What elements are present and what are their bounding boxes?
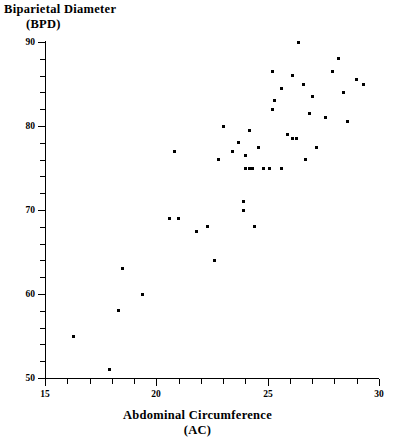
data-point: [355, 78, 358, 81]
data-point: [121, 267, 124, 270]
data-point: [308, 112, 311, 115]
data-point: [271, 108, 274, 111]
data-point: [253, 225, 256, 228]
data-point: [262, 167, 265, 170]
data-point: [268, 167, 271, 170]
data-point: [315, 146, 318, 149]
x-axis-title: Abdominal Circumference (AC): [0, 408, 395, 438]
data-point: [346, 120, 349, 123]
y-axis-tick-label: 60: [15, 289, 35, 299]
data-point: [273, 99, 276, 102]
y-axis-minor-tick: [40, 76, 45, 77]
y-axis-title: Biparietal Diameter (BPD): [4, 2, 116, 32]
y-axis-minor-tick: [40, 328, 45, 329]
data-point: [206, 225, 209, 228]
x-axis-minor-tick: [67, 379, 68, 384]
x-axis-tick-label: 20: [144, 389, 168, 399]
x-axis-tick-label: 15: [33, 389, 57, 399]
x-axis-minor-tick: [201, 379, 202, 384]
y-axis-minor-tick: [40, 59, 45, 60]
data-point: [108, 368, 111, 371]
x-axis-line: [45, 378, 379, 379]
x-axis-minor-tick: [179, 379, 180, 384]
x-axis-minor-tick: [290, 379, 291, 384]
data-point: [72, 335, 75, 338]
y-axis-minor-tick: [40, 109, 45, 110]
data-point: [117, 309, 120, 312]
data-point: [280, 167, 283, 170]
x-axis-minor-tick: [245, 379, 246, 384]
y-axis-minor-tick: [40, 344, 45, 345]
data-point: [231, 150, 234, 153]
x-axis-minor-tick: [223, 379, 224, 384]
y-axis-minor-tick: [40, 176, 45, 177]
data-point: [242, 209, 245, 212]
y-axis-minor-tick: [40, 277, 45, 278]
data-point: [217, 158, 220, 161]
data-point: [331, 70, 334, 73]
x-axis-major-tick: [379, 379, 380, 386]
data-point: [311, 95, 314, 98]
data-point: [286, 133, 289, 136]
data-point: [168, 217, 171, 220]
data-point: [222, 125, 225, 128]
y-axis-tick-label: 90: [15, 37, 35, 47]
x-axis-minor-tick: [112, 379, 113, 384]
y-axis-minor-tick: [40, 311, 45, 312]
data-point: [291, 74, 294, 77]
data-point: [237, 141, 240, 144]
y-axis-title-line1: Biparietal Diameter: [4, 2, 116, 17]
y-axis-major-tick: [38, 126, 45, 127]
data-point: [177, 217, 180, 220]
data-point: [242, 200, 245, 203]
y-axis-line: [45, 41, 46, 379]
x-axis-minor-tick: [134, 379, 135, 384]
x-axis-minor-tick: [90, 379, 91, 384]
y-axis-tick-label: 80: [15, 121, 35, 131]
data-point: [362, 83, 365, 86]
x-axis-minor-tick: [357, 379, 358, 384]
x-axis-major-tick: [45, 379, 46, 386]
x-axis-tick-label: 30: [367, 389, 391, 399]
data-point: [324, 116, 327, 119]
y-axis-tick-label: 50: [15, 373, 35, 383]
y-axis-minor-tick: [40, 92, 45, 93]
y-axis-minor-tick: [40, 260, 45, 261]
data-point: [244, 154, 247, 157]
data-point: [173, 150, 176, 153]
data-point: [271, 70, 274, 73]
data-point: [248, 129, 251, 132]
x-axis-minor-tick: [334, 379, 335, 384]
x-axis-major-tick: [268, 379, 269, 386]
data-point: [251, 167, 254, 170]
data-point: [280, 87, 283, 90]
data-point: [302, 83, 305, 86]
data-point: [304, 158, 307, 161]
y-axis-tick-label: 70: [15, 205, 35, 215]
data-point: [342, 91, 345, 94]
data-point: [257, 146, 260, 149]
data-point: [297, 41, 300, 44]
y-axis-major-tick: [38, 42, 45, 43]
y-axis-minor-tick: [40, 143, 45, 144]
x-axis-tick-label: 25: [256, 389, 280, 399]
data-point: [244, 167, 247, 170]
y-axis-minor-tick: [40, 193, 45, 194]
data-point: [141, 293, 144, 296]
data-point: [295, 137, 298, 140]
x-axis-title-line1: Abdominal Circumference: [0, 408, 395, 423]
y-axis-minor-tick: [40, 244, 45, 245]
y-axis-major-tick: [38, 378, 45, 379]
data-point: [195, 230, 198, 233]
y-axis-minor-tick: [40, 160, 45, 161]
x-axis-major-tick: [156, 379, 157, 386]
y-axis-major-tick: [38, 210, 45, 211]
data-point: [291, 137, 294, 140]
y-axis-minor-tick: [40, 361, 45, 362]
data-point: [337, 57, 340, 60]
y-axis-title-line2: (BPD): [4, 17, 116, 32]
data-point: [213, 259, 216, 262]
y-axis-major-tick: [38, 294, 45, 295]
x-axis-title-line2: (AC): [0, 423, 395, 438]
scatter-plot-figure: Biparietal Diameter (BPD) 5060708090 152…: [0, 0, 395, 443]
